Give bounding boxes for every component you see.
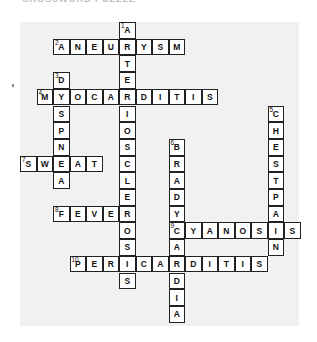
crossword-cell[interactable]: T [268,172,285,189]
crossword-cell[interactable]: D [169,189,186,206]
crossword-cell[interactable]: Y [53,89,70,106]
crossword-cell[interactable]: A [169,306,186,323]
crossword-cell[interactable]: C [136,256,153,273]
crossword-cell[interactable]: P [53,122,70,139]
crossword-cell[interactable]: O [119,222,136,239]
crossword-cell[interactable]: R [119,89,136,106]
crossword-cell[interactable]: C5 [268,106,285,123]
crossword-cell[interactable]: E [119,72,136,89]
crossword-cell[interactable]: D [185,256,202,273]
crossword-cell[interactable]: I [119,106,136,123]
cell-letter: E [108,209,114,219]
crossword-cell[interactable]: A [202,222,219,239]
cell-letter: Y [190,226,196,236]
crossword-cell[interactable]: M4 [37,89,54,106]
crossword-cell[interactable]: R [103,256,120,273]
crossword-cell[interactable]: E [70,206,87,223]
crossword-cell[interactable]: N [218,222,235,239]
cell-letter: A [58,42,64,52]
crossword-cell[interactable]: S [119,239,136,256]
crossword-cell[interactable]: S [202,89,219,106]
crossword-cell[interactable]: T [169,89,186,106]
crossword-cell[interactable]: E [86,256,103,273]
crossword-cell[interactable]: R [169,256,186,273]
crossword-cell[interactable]: E [103,206,120,223]
crossword-cell[interactable]: S [251,222,268,239]
cell-letter: S [124,142,130,152]
crossword-cell[interactable]: I [202,256,219,273]
crossword-cell[interactable]: N [70,39,87,56]
crossword-cell[interactable]: T [218,256,235,273]
crossword-cell[interactable]: A [152,256,169,273]
crossword-cell[interactable]: A [103,89,120,106]
crossword-cell[interactable]: T [86,156,103,173]
crossword-cell[interactable]: A2 [53,39,70,56]
crossword-cell[interactable]: A1 [119,22,136,39]
crossword-cell[interactable]: E [53,156,70,173]
crossword-cell[interactable]: A [169,239,186,256]
crossword-cell[interactable]: Y [169,206,186,223]
crossword-cell[interactable]: C [86,89,103,106]
puzzle-title: CROSSWORD PUZZLE [22,0,142,4]
crossword-cell[interactable]: A [169,172,186,189]
crossword-cell[interactable]: W [37,156,54,173]
stray-mark [12,84,14,87]
crossword-cell[interactable]: A [268,206,285,223]
crossword-cell[interactable]: D [136,89,153,106]
crossword-cell[interactable]: U [103,39,120,56]
crossword-cell[interactable]: Y [185,222,202,239]
crossword-cell[interactable]: E [268,139,285,156]
crossword-cell[interactable]: I [235,256,252,273]
crossword-cell[interactable]: D [169,273,186,290]
crossword-cell[interactable]: N [53,139,70,156]
crossword-cell[interactable]: T [119,55,136,72]
crossword-cell[interactable]: R [119,206,136,223]
cell-letter: O [124,126,131,136]
crossword-cell[interactable]: D3 [53,72,70,89]
crossword-cell[interactable]: A [53,172,70,189]
crossword-cell[interactable]: I [119,256,136,273]
crossword-cell[interactable]: O [119,122,136,139]
crossword-cell[interactable]: S [152,39,169,56]
cell-letter: D [190,259,196,269]
crossword-cell[interactable]: I [152,89,169,106]
crossword-cell[interactable]: B6 [169,139,186,156]
cell-letter: O [74,92,81,102]
crossword-cell[interactable]: L [119,172,136,189]
crossword-cell[interactable]: I [169,289,186,306]
crossword-cell[interactable]: C9 [169,222,186,239]
crossword-cell[interactable]: I [185,89,202,106]
crossword-cell[interactable]: P10 [70,256,87,273]
crossword-cell[interactable]: O [235,222,252,239]
crossword-cell[interactable]: P [268,189,285,206]
crossword-cell[interactable]: I [268,222,285,239]
cell-letter: I [126,109,128,119]
cell-letter: A [75,159,81,169]
crossword-cell[interactable]: R [119,39,136,56]
crossword-cell[interactable]: S [119,139,136,156]
crossword-cell[interactable]: S [284,222,301,239]
crossword-cell[interactable]: E [86,39,103,56]
crossword-cell[interactable]: S7 [20,156,37,173]
cell-letter: I [192,92,194,102]
crossword-cell[interactable]: V [86,206,103,223]
crossword-cell[interactable]: N [268,239,285,256]
crossword-cell[interactable]: M [169,39,186,56]
crossword-cell[interactable]: R [169,156,186,173]
cell-letter: R [174,259,180,269]
crossword-cell[interactable]: H [268,122,285,139]
crossword-cell[interactable]: S [53,106,70,123]
cell-letter: O [124,226,131,236]
cell-letter: E [124,192,130,202]
crossword-cell[interactable]: S [268,156,285,173]
clue-number: 1 [121,22,125,29]
crossword-cell[interactable]: S [251,256,268,273]
crossword-cell[interactable]: S [119,273,136,290]
crossword-cell[interactable]: F8 [53,206,70,223]
crossword-cell[interactable]: O [70,89,87,106]
cell-letter: S [207,92,213,102]
crossword-cell[interactable]: E [119,189,136,206]
crossword-cell[interactable]: Y [136,39,153,56]
crossword-cell[interactable]: C [119,156,136,173]
crossword-cell[interactable]: A [70,156,87,173]
